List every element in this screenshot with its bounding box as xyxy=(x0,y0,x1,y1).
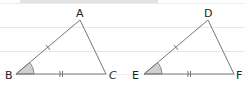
vertex-label-a: A xyxy=(76,7,84,20)
vertex-label-e: E xyxy=(132,69,139,82)
triangle-abc: A B C xyxy=(5,7,117,82)
vertex-label-f: F xyxy=(236,69,242,82)
top-bar xyxy=(20,0,158,3)
vertex-label-d: D xyxy=(204,7,212,20)
vertex-label-c: C xyxy=(109,69,117,82)
vertex-label-b: B xyxy=(5,69,13,82)
congruent-triangles-diagram: A B C D E F xyxy=(0,0,245,88)
triangle-def: D E F xyxy=(132,7,242,82)
